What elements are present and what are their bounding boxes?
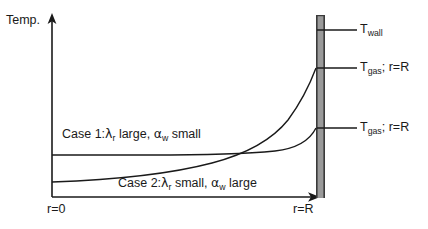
case1-label: Case 1:λr large, αw small [62, 128, 201, 141]
wall-bar [316, 15, 325, 198]
t-gas-1-label: Tgas; r=R [360, 61, 409, 74]
case2-label-lambda-subscript: r [169, 182, 172, 192]
t-gas-2-label: Tgas; r=R [360, 121, 409, 134]
case1-label-lambda-subscript: r [113, 133, 116, 143]
case1-label-middle: large, [115, 127, 153, 141]
t-gas-2-suffix: ; r=R [382, 120, 409, 134]
t-gas-1-symbol: T [360, 60, 368, 74]
case2-label-middle: small, [171, 176, 211, 190]
t-wall-symbol: T [360, 22, 368, 36]
x-axis [52, 192, 320, 201]
case1-label-prefix: Case 1: [62, 127, 105, 141]
case1-label-lambda: λ [105, 126, 112, 141]
case2-label-lambda: λ [161, 175, 168, 190]
t-gas-1-suffix: ; r=R [382, 60, 409, 74]
x-axis-start-label: r=0 [47, 203, 65, 216]
case2-label: Case 2:λr small, αw large [118, 177, 257, 190]
case1-label-alpha: α [154, 126, 162, 141]
temperature-profile-figure: Temp. r=0 r=R Case 1:λr large, αw small … [0, 0, 428, 229]
t-wall-subscript: wall [368, 28, 383, 38]
case1-label-suffix: small [168, 127, 201, 141]
t-gas-1-subscript: gas [368, 66, 382, 76]
case1-label-alpha-subscript: w [162, 133, 168, 143]
case2-label-prefix: Case 2: [118, 176, 161, 190]
x-axis-end-label: r=R [293, 203, 314, 216]
t-gas-2-subscript: gas [368, 126, 382, 136]
case2-label-suffix: large [226, 176, 257, 190]
y-axis [48, 13, 57, 197]
t-wall-label: Twall [360, 23, 383, 36]
case2-curve [52, 68, 316, 182]
y-axis-title: Temp. [6, 14, 40, 27]
t-gas-2-symbol: T [360, 120, 368, 134]
case2-label-alpha-subscript: w [219, 182, 225, 192]
